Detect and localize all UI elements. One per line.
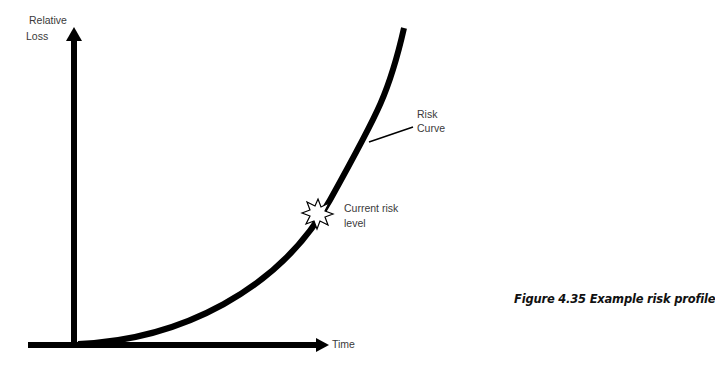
y-axis-label-line1: Relative	[29, 13, 67, 28]
current-risk-label-line2: level	[344, 216, 366, 231]
risk-curve	[78, 28, 404, 344]
x-axis-label: Time	[332, 337, 355, 352]
current-risk-star-icon	[302, 199, 333, 229]
y-axis-label-line2: Loss	[26, 29, 48, 44]
risk-curve-leader-line	[369, 127, 413, 142]
risk-curve-label-line2: Curve	[417, 121, 445, 136]
x-axis-arrowhead-icon	[316, 338, 329, 352]
y-axis-arrowhead-icon	[66, 27, 82, 41]
figure-caption: Figure 4.35 Example risk profile	[514, 292, 715, 306]
current-risk-label-line1: Current risk	[344, 201, 398, 216]
risk-curve-label-line1: Risk	[417, 107, 437, 122]
